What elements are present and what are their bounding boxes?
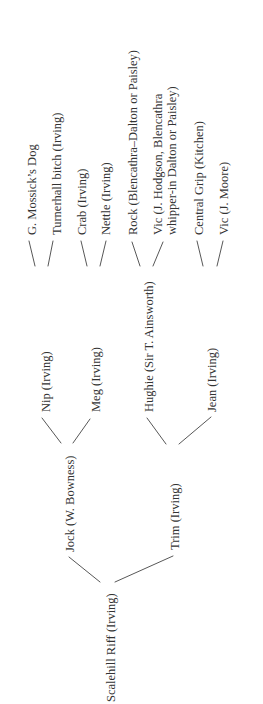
- edge-hughie-vic-hodgson: [153, 242, 163, 266]
- pedigree-diagram: G. Mossick’s Dog Turnerhall bitch (Irvin…: [0, 0, 263, 704]
- node-label: Turnerhall bitch (Irving): [51, 113, 64, 235]
- node-label: Hughie (Sir T. Ainsworth): [143, 281, 156, 412]
- node-label: Meg (Irving): [90, 347, 103, 412]
- node-label: Nettle (Irving): [100, 162, 113, 235]
- node-label: Jock (W. Bowness): [64, 456, 77, 552]
- edge-trim-jean: [179, 417, 211, 444]
- node-label: G. Mossick’s Dog: [26, 144, 39, 235]
- node-label-line-2: whipper-in Dalton or Paisley): [165, 86, 179, 235]
- node-label: Rock (Blencathra–Dalton or Paisley): [127, 50, 140, 235]
- edge-jock-meg: [73, 419, 90, 443]
- edge-jean-vic-moore: [217, 241, 223, 266]
- edge-meg-nettle: [100, 241, 106, 266]
- node-label: Central Grip (Kitchen): [193, 121, 206, 235]
- node-label: Vic (J. Hodgson, Blencathra whipper-in D…: [151, 86, 179, 235]
- edge-nip-g-mossicks-dog: [29, 241, 35, 266]
- edge-jean-central-grip: [197, 241, 203, 266]
- node-label: Jean (Irving): [206, 348, 219, 412]
- node-label: Trim (Irving): [169, 483, 182, 550]
- edge-jock-nip: [42, 418, 61, 443]
- node-label-line-1: Vic (J. Hodgson, Blencathra: [151, 86, 165, 235]
- edge-scalehill-riff-trim: [115, 556, 173, 582]
- edge-nip-turnerhall-bitch: [48, 241, 53, 266]
- edge-hughie-rock: [132, 242, 140, 266]
- edge-scalehill-riff-jock: [69, 557, 100, 582]
- edge-meg-crab: [81, 241, 87, 266]
- node-label: Crab (Irving): [76, 169, 89, 235]
- node-label: Nip (Irving): [40, 351, 53, 412]
- edge-trim-hughie: [147, 418, 166, 444]
- node-label: Vic (J. Moore): [218, 162, 231, 235]
- node-label: Scalehill Riff (Irving): [105, 593, 118, 702]
